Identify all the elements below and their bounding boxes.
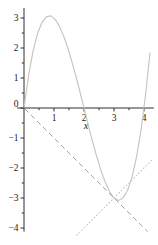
y-tick-label: 1 <box>14 73 19 83</box>
plot-svg: 12343210−1−2−3−4x <box>0 0 158 245</box>
y-tick-label: 2 <box>14 43 19 53</box>
y-tick-label: 3 <box>14 13 19 23</box>
y-tick-label: −2 <box>8 163 18 173</box>
x-tick-label: 3 <box>112 113 117 123</box>
plot-canvas-holder: 12343210−1−2−3−4x <box>0 0 158 245</box>
y-tick-label: 0 <box>14 99 19 109</box>
y-tick-label: −4 <box>8 223 18 233</box>
x-tick-label: 1 <box>52 113 57 123</box>
y-tick-label: −1 <box>8 133 18 143</box>
plot-figure: 12343210−1−2−3−4x <box>0 0 158 245</box>
y-tick-label: −3 <box>8 193 18 203</box>
normal-dotted-line <box>77 159 153 235</box>
